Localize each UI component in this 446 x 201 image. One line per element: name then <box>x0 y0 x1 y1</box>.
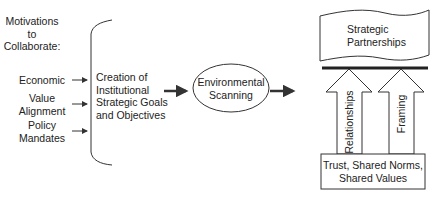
motivations-title-line: to <box>0 28 64 41</box>
goals-text-line: and Objectives <box>96 109 176 122</box>
scanning-text-line: Scanning <box>193 89 269 102</box>
motivation-value-alignment: Value Alignment <box>14 92 70 117</box>
motivation-economic: Economic <box>14 74 70 87</box>
partnerships-text: Strategic Partnerships <box>347 23 427 48</box>
diagram-canvas: Motivations to Collaborate: Economic Val… <box>0 0 446 201</box>
motivation-arrows <box>72 80 87 131</box>
goals-text: Creation of Institutional Strategic Goal… <box>96 71 176 121</box>
motivation-label: Alignment <box>14 105 70 118</box>
foundation-text: Trust, Shared Norms, Shared Values <box>321 159 425 184</box>
motivation-label: Economic <box>14 74 70 87</box>
scanning-text: Environmental Scanning <box>193 76 269 101</box>
motivations-title-line: Collaborate: <box>0 40 64 53</box>
pillar-label-framing: Framing <box>395 74 407 154</box>
foundation-text-line: Shared Values <box>321 172 425 185</box>
scanning-text-line: Environmental <box>193 76 269 89</box>
motivation-label: Value <box>14 92 70 105</box>
goals-text-line: Institutional <box>96 84 176 97</box>
foundation-text-line: Trust, Shared Norms, <box>321 159 425 172</box>
motivation-label: Mandates <box>14 132 70 145</box>
motivation-label: Policy <box>14 119 70 132</box>
partnerships-text-line: Partnerships <box>347 36 427 49</box>
pillar-label-relationships: Relationships <box>343 82 355 162</box>
motivation-policy-mandates: Policy Mandates <box>14 119 70 144</box>
partnerships-text-line: Strategic <box>347 23 427 36</box>
motivations-title-line: Motivations <box>0 15 64 28</box>
motivations-title: Motivations to Collaborate: <box>0 15 64 53</box>
goals-text-line: Strategic Goals <box>96 96 176 109</box>
goals-text-line: Creation of <box>96 71 176 84</box>
